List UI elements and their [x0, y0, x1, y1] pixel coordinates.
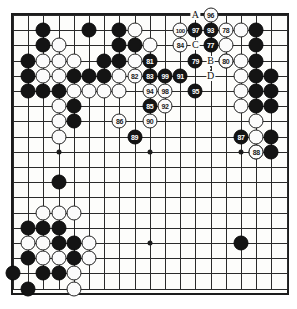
move-number-label: 92 — [162, 103, 169, 110]
numbered-move-stone[interactable]: 84 — [173, 38, 188, 53]
move-number-label: 82 — [131, 72, 138, 79]
move-number-label: 80 — [222, 57, 229, 64]
move-number-label: 83 — [146, 72, 153, 79]
move-number-label: 77 — [207, 42, 214, 49]
numbered-move-stone[interactable]: 98 — [158, 84, 173, 99]
move-number-label: 86 — [116, 118, 123, 125]
numbered-move-stone[interactable]: 80 — [218, 53, 233, 68]
numbered-move-stone[interactable]: 95 — [188, 84, 203, 99]
numbered-move-stone[interactable]: 90 — [142, 114, 157, 129]
point-label-b: B — [206, 56, 215, 66]
move-number-label: 97 — [192, 27, 199, 34]
numbered-move-stone[interactable]: 89 — [127, 129, 142, 144]
numbered-move-stone[interactable]: 100 — [173, 23, 188, 38]
move-number-label: 84 — [177, 42, 184, 49]
move-number-label: 96 — [207, 12, 214, 19]
move-number-label: 98 — [162, 88, 169, 95]
move-number-label: 88 — [253, 148, 260, 155]
numbered-move-stone[interactable]: 82 — [127, 68, 142, 83]
move-number-label: 81 — [146, 57, 153, 64]
numbered-move-stone[interactable]: 92 — [158, 99, 173, 114]
move-number-label: 87 — [238, 133, 245, 140]
move-number-label: 100 — [176, 28, 185, 34]
numbered-move-stone[interactable]: 78 — [218, 23, 233, 38]
move-number-label: 99 — [162, 72, 169, 79]
numbered-move-stone[interactable]: 86 — [112, 114, 127, 129]
point-label-a: A — [191, 10, 200, 20]
move-number-label: 89 — [131, 133, 138, 140]
move-number-label: 85 — [146, 103, 153, 110]
numbered-move-stone[interactable]: 87 — [234, 129, 249, 144]
numbered-move-stone[interactable]: 85 — [142, 99, 157, 114]
point-label-c: C — [191, 40, 200, 50]
move-number-label: 93 — [207, 27, 214, 34]
numbered-move-stone[interactable]: 83 — [142, 68, 157, 83]
numbered-move-stone[interactable]: 79 — [188, 53, 203, 68]
point-label-d: D — [206, 71, 215, 81]
move-number-label: 90 — [146, 118, 153, 125]
numbered-move-stone[interactable]: 96 — [203, 8, 218, 23]
numbered-move-stone[interactable]: 94 — [142, 84, 157, 99]
go-diagram: 9610097937884778179808283999194989585928… — [0, 0, 297, 309]
numbered-move-stone[interactable]: 93 — [203, 23, 218, 38]
move-number-label: 79 — [192, 57, 199, 64]
numbered-move-stone[interactable]: 81 — [142, 53, 157, 68]
move-number-label: 91 — [177, 72, 184, 79]
move-number-label: 95 — [192, 88, 199, 95]
move-number-label: 78 — [222, 27, 229, 34]
numbered-move-stone[interactable]: 88 — [249, 144, 264, 159]
numbered-move-stone[interactable]: 91 — [173, 68, 188, 83]
numbered-move-stone[interactable]: 77 — [203, 38, 218, 53]
numbered-move-stone[interactable]: 97 — [188, 23, 203, 38]
numbered-move-stone[interactable]: 99 — [158, 68, 173, 83]
move-number-label: 94 — [146, 88, 153, 95]
